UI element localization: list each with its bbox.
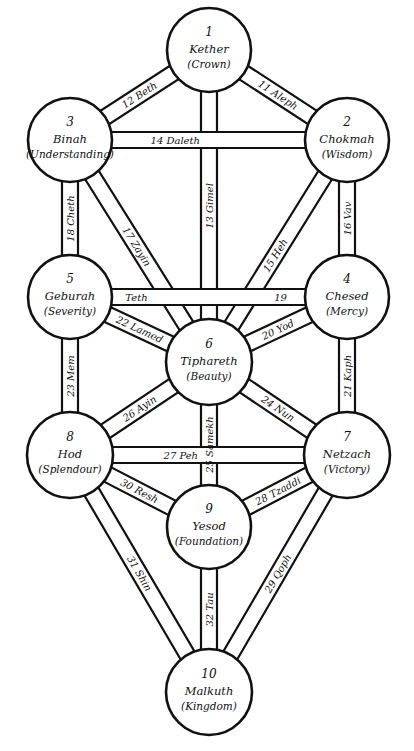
sephirah-meaning: (Splendour) <box>38 463 101 475</box>
path-label-21: 21 Kaph <box>342 355 353 398</box>
sephirah-number: 10 <box>201 667 217 681</box>
sephirah-meaning: (Severity) <box>44 305 96 317</box>
sephirah-meaning: (Understanding) <box>26 148 114 160</box>
sephirah-yesod: 9Yesod(Foundation) <box>167 485 251 569</box>
sephirah-number: 9 <box>205 502 213 516</box>
path-label-14: 14 Daleth <box>151 135 200 146</box>
path-label-19-letter: Teth <box>125 292 147 303</box>
sephirah-name: Chesed <box>325 289 368 303</box>
sephirah-number: 1 <box>205 25 213 39</box>
sephirah-name: Geburah <box>45 289 96 303</box>
tree-of-life-diagram: 11 Aleph12 Beth13 Gimel14 Daleth15 Heh16… <box>0 0 414 751</box>
sephirah-chesed: 4Chesed(Mercy) <box>305 255 389 339</box>
sephirah-name: Chokmah <box>319 132 374 146</box>
sephirah-number: 4 <box>342 272 351 286</box>
sephirah-kether: 1Kether(Crown) <box>167 8 251 92</box>
sephirah-name: Hod <box>57 447 82 461</box>
path-label-16: 16 Vav <box>342 201 353 235</box>
path-label-27: 27 Peh <box>163 450 199 461</box>
sephirah-hod: 8Hod(Splendour) <box>27 412 113 498</box>
path-label-23: 23 Mem <box>65 355 76 398</box>
sephirah-binah: 3Binah(Understanding) <box>26 98 114 182</box>
sephirah-number: 7 <box>343 430 351 444</box>
sephirah-meaning: (Victory) <box>324 463 370 475</box>
sephirah-name: Tiphareth <box>180 354 237 368</box>
sephirah-meaning: (Mercy) <box>326 305 368 317</box>
path-label-18: 18 Cheth <box>65 195 76 241</box>
path-label-32: 32 Tau <box>204 592 215 626</box>
sephirah-name: Netzach <box>322 447 371 461</box>
sephirah-meaning: (Foundation) <box>175 535 243 547</box>
path-label-25: 25 Samekh <box>204 416 215 474</box>
sephirah-name: Malkuth <box>184 684 234 698</box>
sephirah-name: Yesod <box>192 519 226 533</box>
sephirah-number: 8 <box>66 430 74 444</box>
sephirah-meaning: (Wisdom) <box>322 148 373 160</box>
sephirah-tiphareth: 6Tiphareth(Beauty) <box>166 319 252 405</box>
sephirah-number: 5 <box>66 272 74 286</box>
path-label-19: 19 <box>274 292 287 303</box>
sephirah-number: 6 <box>205 337 213 351</box>
sephirah-name: Kether <box>188 42 230 56</box>
sephirah-meaning: (Crown) <box>187 58 230 70</box>
sephirah-netzach: 7Netzach(Victory) <box>304 412 390 498</box>
sephirah-geburah: 5Geburah(Severity) <box>28 255 112 339</box>
sephirah-meaning: (Kingdom) <box>181 700 237 712</box>
sephirah-malkuth: 10Malkuth(Kingdom) <box>166 649 252 735</box>
sephirah-meaning: (Beauty) <box>186 370 231 382</box>
sephirah-chokmah: 2Chokmah(Wisdom) <box>305 98 389 182</box>
sephirah-number: 2 <box>342 115 351 129</box>
sephirah-number: 3 <box>66 115 74 129</box>
path-label-13: 13 Gimel <box>204 183 215 229</box>
sephirah-name: Binah <box>52 132 87 146</box>
